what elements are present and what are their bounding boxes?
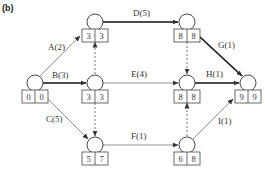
latest-start: 8 bbox=[191, 31, 195, 41]
edge-b: B(3) bbox=[43, 70, 86, 83]
edge-label-a: A(2) bbox=[48, 42, 65, 52]
latest-start: 3 bbox=[99, 31, 103, 41]
node-circle bbox=[87, 14, 103, 30]
latest-start: 3 bbox=[99, 92, 103, 102]
node-circle bbox=[240, 75, 256, 91]
edge-c: C(5) bbox=[46, 98, 88, 139]
latest-start: 0 bbox=[39, 92, 43, 102]
edge-label-h: H(1) bbox=[206, 69, 223, 79]
edge-label-d: D(5) bbox=[133, 8, 150, 18]
edge-d: D(5) bbox=[103, 8, 178, 22]
node-start: 0 0 bbox=[22, 75, 48, 103]
nodes-layer: 0 0 3 3 3 3 5 7 bbox=[22, 14, 261, 165]
node-circle bbox=[27, 75, 43, 91]
node-circle bbox=[87, 75, 103, 91]
node-circle bbox=[179, 137, 195, 153]
edge-label-g: G(1) bbox=[218, 40, 235, 50]
node-6: 6 8 bbox=[174, 137, 200, 165]
activity-network-diagram: (b) A(2) B(3) C(5) D(5) E(4) F bbox=[0, 0, 265, 173]
earliest-start: 8 bbox=[178, 92, 182, 102]
edges-layer: A(2) B(3) C(5) D(5) E(4) F(1) G( bbox=[40, 8, 242, 145]
latest-start: 8 bbox=[191, 154, 195, 164]
node-circle bbox=[87, 137, 103, 153]
figure-label: (b) bbox=[2, 3, 14, 13]
node-3: 5 7 bbox=[82, 137, 108, 165]
earliest-start: 5 bbox=[86, 154, 90, 164]
node-2: 3 3 bbox=[82, 75, 108, 103]
earliest-start: 8 bbox=[178, 31, 182, 41]
earliest-start: 0 bbox=[26, 92, 30, 102]
node-1: 3 3 bbox=[82, 14, 108, 42]
edge-h: H(1) bbox=[195, 69, 239, 83]
edge-label-b: B(3) bbox=[52, 70, 69, 80]
node-circle bbox=[179, 14, 195, 30]
edge-i: I(1) bbox=[193, 99, 233, 139]
node-5: 8 8 bbox=[174, 75, 200, 103]
edge-f: F(1) bbox=[103, 131, 178, 145]
edge-e: E(4) bbox=[103, 69, 178, 83]
edge-label-e: E(4) bbox=[131, 69, 147, 79]
edge-label-f: F(1) bbox=[131, 131, 147, 141]
latest-start: 7 bbox=[99, 154, 103, 164]
edge-label-c: C(5) bbox=[46, 114, 63, 124]
node-end: 9 9 bbox=[235, 75, 261, 103]
latest-start: 8 bbox=[191, 92, 195, 102]
latest-start: 9 bbox=[252, 92, 256, 102]
node-4: 8 8 bbox=[174, 14, 200, 42]
edge-label-i: I(1) bbox=[218, 116, 232, 126]
earliest-start: 6 bbox=[178, 154, 182, 164]
node-circle bbox=[179, 75, 195, 91]
earliest-start: 3 bbox=[86, 31, 90, 41]
earliest-start: 9 bbox=[239, 92, 243, 102]
earliest-start: 3 bbox=[86, 92, 90, 102]
